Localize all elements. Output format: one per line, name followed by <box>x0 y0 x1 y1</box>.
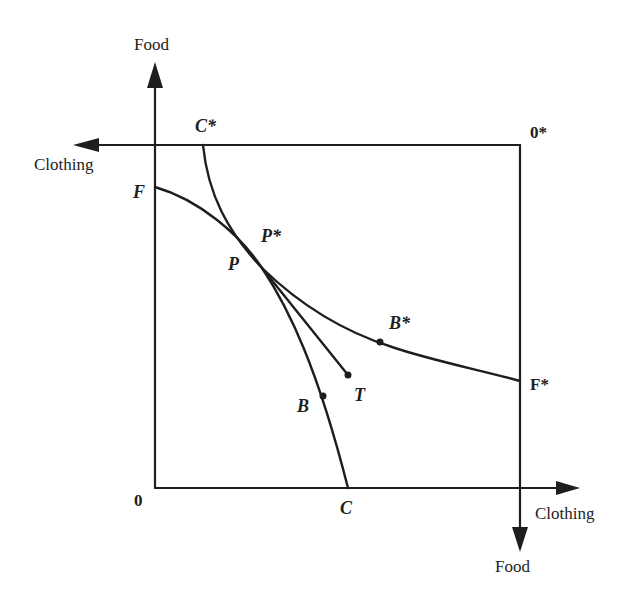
point-f-label: F <box>132 182 145 202</box>
origin-home-label: 0 <box>134 491 143 510</box>
point-t-label: T <box>354 385 366 405</box>
point-t-marker <box>345 372 352 379</box>
origin-foreign-label: 0* <box>530 123 547 142</box>
point-b-star-marker <box>377 339 384 346</box>
clothing-right-arrow-icon <box>556 481 580 495</box>
point-f-star-label: F* <box>530 375 549 394</box>
home-clothing-axis-label: Clothing <box>34 155 94 174</box>
point-c-star-label: C* <box>195 116 217 136</box>
clothing-left-arrow-icon <box>73 138 99 152</box>
point-p-star-label: P* <box>260 226 282 246</box>
food-up-arrow-icon <box>147 62 163 88</box>
point-b-marker <box>320 393 327 400</box>
point-c-label: C <box>340 498 353 518</box>
point-b-label: B <box>296 396 309 416</box>
foreign-clothing-axis-label: Clothing <box>535 504 595 523</box>
point-b-star-label: B* <box>388 313 411 333</box>
box-frame <box>88 78 566 538</box>
foreign-food-axis-label: Food <box>495 557 530 576</box>
edgeworth-box-diagram: Food Clothing Clothing Food 0 0* F C C* … <box>0 0 641 600</box>
food-down-arrow-icon <box>512 527 528 552</box>
point-p-label: P <box>227 254 240 274</box>
home-food-axis-label: Food <box>134 35 169 54</box>
foreign-ppf-curve <box>203 145 520 381</box>
